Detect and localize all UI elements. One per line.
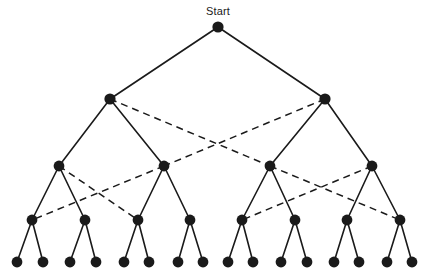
tree-node-n3h [395, 215, 406, 226]
tree-edge-n3e-n4i [228, 220, 242, 262]
tree-edge-n1a-n2b [110, 99, 164, 166]
tree-edge-n3e-n4j [242, 220, 253, 262]
tree-edge-n3f-n4k [281, 220, 295, 262]
tree-node-n4c [65, 257, 76, 268]
tree-node-n4o [382, 257, 393, 268]
tree-node-n4j [248, 257, 259, 268]
tree-node-n2d [367, 161, 378, 172]
tree-edge-n3a-n4b [32, 220, 43, 262]
tree-node-n0 [212, 21, 223, 32]
tree-edge-n2d-n3g [347, 166, 372, 220]
dashed-edge-n2a-n3c [59, 166, 138, 220]
tree-node-n4a [12, 257, 23, 268]
tree-edge-n0-n1a [110, 27, 218, 99]
tree-node-n4i [223, 257, 234, 268]
tree-edge-n3g-n4n [347, 220, 359, 262]
tree-edge-n2c-n3f [270, 166, 295, 220]
tree-node-n4n [354, 257, 365, 268]
tree-node-n4l [302, 257, 313, 268]
tree-edge-n2b-n3d [164, 166, 190, 220]
dashed-edge-n2d-n3e [242, 166, 372, 220]
tree-edge-n3d-n4g [178, 220, 190, 262]
tree-edge-n3d-n4h [190, 220, 203, 262]
tree-graphic [0, 0, 430, 278]
tree-edge-n3c-n4e [124, 220, 138, 262]
tree-node-n1a [104, 93, 115, 104]
tree-edge-n3g-n4m [334, 220, 347, 262]
dashed-edge-group [32, 99, 400, 220]
tree-edge-n3f-n4l [295, 220, 307, 262]
tree-edge-n1a-n2a [59, 99, 110, 166]
tree-edge-n2c-n3e [242, 166, 270, 220]
tree-node-n4p [407, 257, 418, 268]
tree-node-n3f [290, 215, 301, 226]
dashed-edge-n2b-n3a [32, 166, 164, 220]
tree-edge-n1b-n2d [325, 99, 372, 166]
tree-node-n4g [173, 257, 184, 268]
dashed-edge-n2c-n3h [270, 166, 400, 220]
tree-node-n3g [342, 215, 353, 226]
tree-edge-n2d-n3h [372, 166, 400, 220]
tree-node-n4d [91, 257, 102, 268]
start-label: Start [206, 5, 230, 17]
tree-node-n3e [237, 215, 248, 226]
tree-node-n2b [159, 161, 170, 172]
tree-node-n4e [119, 257, 130, 268]
solid-edge-group [17, 27, 412, 262]
tree-node-n2a [54, 161, 65, 172]
tree-node-n4h [198, 257, 209, 268]
tree-node-n3d [185, 215, 196, 226]
tree-node-n4m [329, 257, 340, 268]
tree-edge-n3a-n4a [17, 220, 32, 262]
tree-edge-n3h-n4p [400, 220, 412, 262]
tree-edge-n3b-n4c [70, 220, 85, 262]
tree-edge-n2b-n3c [138, 166, 164, 220]
tree-node-n1b [319, 93, 330, 104]
tree-node-n4k [276, 257, 287, 268]
tree-edge-n3c-n4f [138, 220, 149, 262]
tree-node-n4b [38, 257, 49, 268]
tree-node-n2c [265, 161, 276, 172]
tree-edge-n3b-n4d [85, 220, 96, 262]
tree-node-n3a [27, 215, 38, 226]
tree-node-n3b [80, 215, 91, 226]
tree-node-n3c [133, 215, 144, 226]
tree-edge-n0-n1b [218, 27, 325, 99]
tree-node-n4f [144, 257, 155, 268]
tree-edge-n2a-n3a [32, 166, 59, 220]
tree-edge-n3h-n4o [387, 220, 400, 262]
tree-edge-n1b-n2c [270, 99, 325, 166]
decision-tree-diagram: Start [0, 0, 430, 278]
